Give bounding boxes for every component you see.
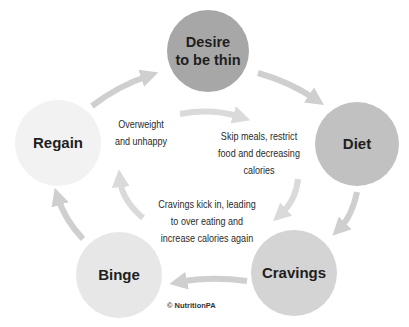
copyright-label: © NutritionPA <box>167 301 216 310</box>
note-cravings-kick-in: Cravings kick in, leading to over eating… <box>144 196 270 247</box>
note-skip-meals: Skip meals, restrict food and decreasing… <box>205 128 313 179</box>
node-binge-label: Binge <box>98 266 140 284</box>
note-overweight: Overweight and unhappy <box>102 116 179 150</box>
arrow-binge-to-regain <box>58 198 83 239</box>
arrow-desire-to-diet <box>258 73 315 99</box>
node-desire-label-line1: Desire <box>175 33 240 51</box>
arrow-diet-to-cravings <box>340 192 357 228</box>
note-cravings-line3: increase calories again <box>144 230 270 247</box>
node-diet: Diet <box>315 102 399 186</box>
inner-arrow-right <box>281 179 298 214</box>
node-desire-label-line2: to be thin <box>175 51 240 69</box>
note-skip-line1: Skip meals, restrict <box>205 128 313 145</box>
node-diet-label: Diet <box>343 135 371 153</box>
note-cravings-line2: to over eating and <box>144 213 270 230</box>
note-skip-line2: food and decreasing <box>205 145 313 162</box>
note-overweight-line1: Overweight <box>102 116 179 133</box>
node-cravings-label: Cravings <box>262 264 326 282</box>
node-desire-to-be-thin: Desire to be thin <box>167 10 249 92</box>
note-cravings-line1: Cravings kick in, leading <box>144 196 270 213</box>
node-regain-label: Regain <box>33 134 83 152</box>
arrow-cravings-to-binge <box>180 279 247 282</box>
inner-arrow-top <box>180 112 240 117</box>
note-skip-line3: calories <box>205 162 313 179</box>
node-regain: Regain <box>15 100 101 186</box>
note-overweight-line2: and unhappy <box>102 133 179 150</box>
arrow-regain-to-desire <box>92 76 148 106</box>
inner-arrow-left <box>120 180 143 218</box>
